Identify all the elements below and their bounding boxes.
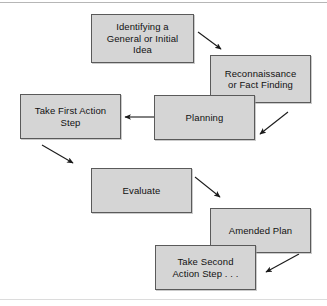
node-label: Reconnaissance or Fact Finding (225, 68, 297, 91)
node-evaluate[interactable]: Evaluate (91, 168, 192, 213)
node-label: Take Second Action Step . . . (172, 256, 238, 279)
node-label: Take First Action Step (35, 105, 106, 128)
arrow-first-action-to-evaluate (42, 145, 73, 163)
node-planning[interactable]: Planning (154, 95, 255, 140)
node-label: Planning (186, 112, 224, 124)
arrow-evaluate-to-amended-plan (195, 177, 220, 197)
node-label: Amended Plan (229, 225, 293, 237)
top-divider-rule (0, 2, 327, 3)
node-identifying-idea[interactable]: Identifying a General or Initial Idea (91, 14, 194, 63)
bottom-divider-rule (0, 299, 327, 300)
node-take-second-action-step[interactable]: Take Second Action Step . . . (155, 245, 256, 290)
arrow-idea-to-reconnaissance (198, 32, 221, 49)
arrow-reconnaissance-to-planning (260, 112, 288, 134)
node-take-first-action-step[interactable]: Take First Action Step (20, 94, 121, 139)
arrow-amended-plan-to-second-action (266, 254, 299, 272)
node-label: Evaluate (123, 185, 161, 197)
flowchart-canvas: Identifying a General or Initial Idea Re… (0, 0, 327, 306)
node-label: Identifying a General or Initial Idea (107, 21, 179, 56)
